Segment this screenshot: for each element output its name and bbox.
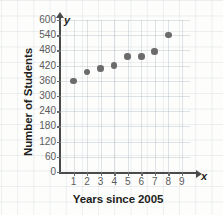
gridline-vertical bbox=[87, 20, 88, 172]
x-tick-mark bbox=[87, 172, 88, 176]
data-point bbox=[111, 62, 118, 69]
gridline-vertical bbox=[114, 20, 115, 172]
gridline-horizontal bbox=[60, 20, 190, 21]
y-tick-mark bbox=[57, 126, 61, 127]
gridline-horizontal bbox=[60, 50, 190, 51]
data-point bbox=[124, 53, 131, 60]
y-tick-mark bbox=[57, 142, 61, 143]
x-tick-mark bbox=[114, 172, 115, 176]
gridline-horizontal bbox=[60, 126, 190, 127]
y-tick-mark bbox=[57, 111, 61, 112]
gridline-horizontal bbox=[60, 81, 190, 82]
x-tick-mark bbox=[101, 172, 102, 176]
gridline-vertical bbox=[101, 20, 102, 172]
y-tick-mark bbox=[57, 81, 61, 82]
x-tick-mark bbox=[141, 172, 142, 176]
data-point bbox=[97, 65, 104, 72]
y-tick-label: 600 bbox=[24, 15, 56, 25]
y-tick-mark bbox=[57, 172, 61, 173]
gridline-vertical bbox=[155, 20, 156, 172]
y-axis-title: Number of Students bbox=[22, 27, 34, 177]
gridline-vertical bbox=[128, 20, 129, 172]
data-point bbox=[151, 48, 158, 55]
data-point bbox=[138, 53, 145, 60]
x-tick-mark bbox=[182, 172, 183, 176]
y-tick-mark bbox=[57, 157, 61, 158]
x-tick-mark bbox=[168, 172, 169, 176]
gridline-horizontal bbox=[60, 111, 190, 112]
gridline-horizontal bbox=[60, 157, 190, 158]
gridline-horizontal bbox=[60, 142, 190, 143]
plot-area bbox=[60, 20, 190, 172]
gridline-horizontal bbox=[60, 96, 190, 97]
data-point bbox=[165, 32, 172, 39]
y-axis-arrow-icon bbox=[56, 12, 64, 18]
y-tick-mark bbox=[57, 96, 61, 97]
y-tick-mark bbox=[57, 35, 61, 36]
y-tick-mark bbox=[57, 20, 61, 21]
x-tick-mark bbox=[74, 172, 75, 176]
gridline-vertical bbox=[182, 20, 183, 172]
y-tick-mark bbox=[57, 50, 61, 51]
y-axis-letter: y bbox=[64, 14, 70, 26]
data-point bbox=[84, 69, 91, 76]
gridline-vertical bbox=[74, 20, 75, 172]
y-tick-mark bbox=[57, 66, 61, 67]
x-tick-mark bbox=[128, 172, 129, 176]
gridline-vertical bbox=[168, 20, 169, 172]
x-tick-label: 9 bbox=[174, 176, 190, 187]
x-tick-mark bbox=[155, 172, 156, 176]
gridline-horizontal bbox=[60, 66, 190, 67]
gridline-vertical bbox=[141, 20, 142, 172]
x-axis-letter: x bbox=[201, 170, 207, 182]
data-point bbox=[70, 78, 77, 85]
scatter-plot-figure: 060120180240300360420480540600 123456789… bbox=[0, 0, 223, 215]
x-axis-title: Years since 2005 bbox=[38, 193, 198, 205]
